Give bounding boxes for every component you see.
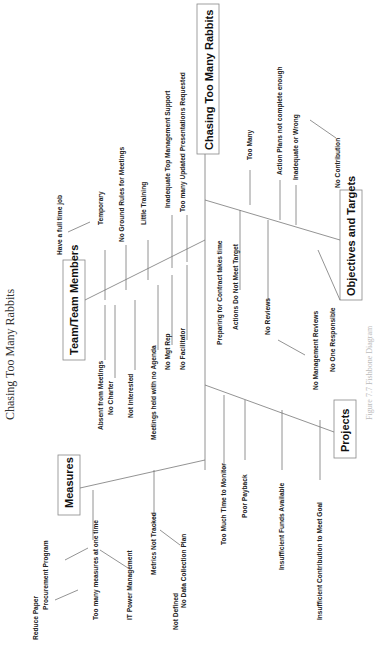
cause-little-training: Little Training [140, 182, 148, 225]
cause-no-ground-rules: No Ground Rules for Meetings [118, 146, 126, 242]
cause-line [160, 530, 180, 545]
effect-box: Chasing Too Many Rabbits [197, 4, 219, 154]
cause-line [278, 340, 305, 355]
cause-insufficient-contribution: Insufficient Contribution to Meet Goal [316, 502, 323, 620]
cause-too-much-time: Too Much Time to Monitor [220, 463, 227, 545]
cause-line [310, 120, 336, 138]
category-team: Team/Team Members [63, 245, 85, 360]
cause-metrics-not-tracked: Metrics Not Tracked [150, 512, 157, 575]
category-measures: Measures [58, 455, 80, 515]
objectives-branch-line [205, 200, 340, 240]
fishbone-diagram: Chasing Too Many Rabbits Chasing Too Man… [0, 0, 380, 668]
category-team-label: Team/Team Members [68, 245, 80, 355]
cause-action-plans: Action Plans not complete enough [276, 67, 284, 175]
category-measures-label: Measures [63, 457, 75, 508]
cause-not-interested: Not Interested [127, 374, 134, 418]
cause-insufficient-funds: Insufficient Funds Available [278, 483, 285, 570]
cause-inadequate-support: Inadequate Top Management Support [164, 90, 172, 208]
cause-preparing: Preparing for Contract takes time [216, 240, 224, 345]
cause-not-defined: Not Defined [172, 593, 179, 630]
cause-no-mgmt-reviews: No Management Reviews [312, 311, 320, 390]
cause-line [68, 222, 90, 232]
objectives-sub-line [318, 250, 340, 300]
cause-full-time-job: Have a full time job [56, 195, 64, 255]
category-objectives: Objectives and Targets [340, 176, 362, 300]
category-projects: Projects [334, 400, 356, 458]
cause-no-reviews: No Reviews [264, 298, 271, 335]
cause-it-power: IT Power Management [126, 550, 134, 620]
cause-no-facilitator: No Facilitator [179, 327, 186, 370]
cause-too-many: Too Many [246, 129, 254, 160]
page-title: Chasing Too Many Rabbits [3, 288, 17, 420]
cause-no-charter: No Charter [107, 380, 114, 415]
category-objectives-label: Objectives and Targets [345, 176, 357, 296]
cause-no-data-plan: No Data Collection Plan [180, 534, 187, 608]
cause-absent: Absent from Meetings [97, 360, 105, 430]
measures-branch-line [80, 460, 205, 488]
cause-line [55, 590, 78, 600]
cause-no-contribution: No Contribution [334, 138, 341, 188]
cause-no-agenda: Meetings held with no Agenda [150, 345, 158, 440]
cause-procurement: Procurement Program [42, 540, 50, 610]
cause-line [65, 548, 88, 560]
cause-too-many-updates: Too many Updated Presentations Requested [179, 72, 187, 212]
cause-no-mgt-rep: No Mgt Rep [164, 333, 172, 370]
figure-caption: Figure 7.7 Fishbone Diagram [365, 325, 374, 420]
cause-inadequate: Inadequate or Wrong [292, 114, 300, 180]
cause-no-one-responsible: No One Responsible [329, 307, 337, 372]
effect-label: Chasing Too Many Rabbits [203, 10, 215, 150]
category-projects-label: Projects [339, 409, 351, 452]
cause-poor-payback: Poor Payback [241, 474, 249, 518]
cause-temporary: Temporary [97, 191, 105, 225]
cause-reduce-paper: Reduce Paper [32, 596, 40, 640]
cause-not-meet-target: Actions Do Not Meet Target [232, 243, 240, 330]
cause-line [100, 550, 128, 568]
